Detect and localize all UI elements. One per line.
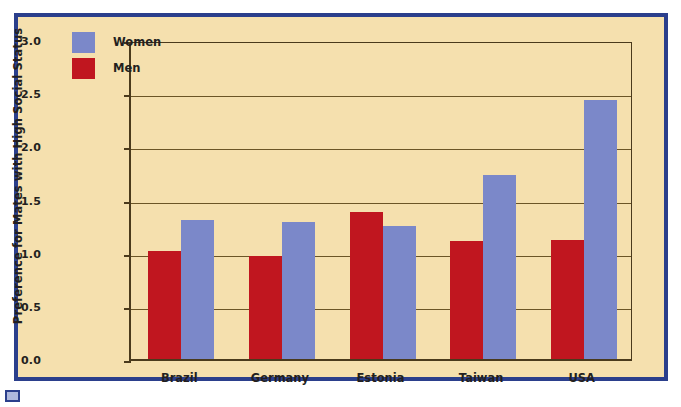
bar-germany-men — [249, 256, 282, 359]
y-axis-tick-label: 1.0 — [21, 248, 41, 261]
y-axis-tick-label: 0.0 — [21, 354, 41, 367]
legend-item-women: Women — [72, 29, 222, 55]
legend-swatch-women — [72, 32, 95, 53]
y-axis-tick-mark — [124, 95, 131, 97]
bar-brazil-men — [148, 251, 181, 359]
y-axis-tick-label: 2.5 — [21, 88, 41, 101]
y-axis-tick-label: 0.5 — [21, 301, 41, 314]
gridline — [131, 149, 631, 150]
chart-legend: WomenMen — [72, 29, 222, 81]
bar-estonia-women — [383, 226, 416, 359]
y-axis-tick-mark — [124, 202, 131, 204]
plot-area — [129, 42, 632, 361]
legend-swatch-men — [72, 58, 95, 79]
y-axis-tick-label: 1.5 — [21, 195, 41, 208]
legend-label-women: Women — [113, 35, 161, 49]
y-axis-tick-label: 3.0 — [21, 35, 41, 48]
y-axis-tick-label: 2.0 — [21, 141, 41, 154]
y-axis-tick-mark — [124, 255, 131, 257]
figure-container: Preference for Mates with High Social St… — [0, 0, 681, 407]
bar-taiwan-men — [450, 241, 483, 359]
caption-marker-icon — [5, 390, 20, 402]
bar-germany-women — [282, 222, 315, 359]
legend-label-men: Men — [113, 61, 140, 75]
bar-brazil-women — [181, 220, 214, 359]
legend-item-men: Men — [72, 55, 222, 81]
bar-taiwan-women — [483, 175, 516, 359]
y-axis-tick-mark — [124, 361, 131, 363]
gridline — [131, 96, 631, 97]
bar-usa-men — [551, 240, 584, 359]
bar-estonia-men — [350, 212, 383, 359]
gridline — [131, 203, 631, 204]
x-axis-tick-label-usa: USA — [522, 371, 642, 385]
y-axis-tick-mark — [124, 148, 131, 150]
chart-panel: Preference for Mates with High Social St… — [18, 17, 664, 377]
y-axis-tick-mark — [124, 308, 131, 310]
figure-frame: Preference for Mates with High Social St… — [14, 13, 668, 381]
bar-usa-women — [584, 100, 617, 359]
